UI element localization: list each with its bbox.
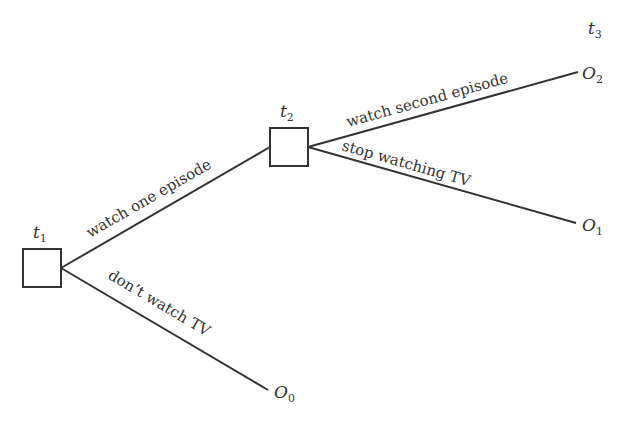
edge-stop-watching-tv xyxy=(308,147,576,223)
node-label-t2: t2 xyxy=(280,101,294,124)
outcome-label-o0: O0 xyxy=(274,382,295,405)
edge-dont-watch-tv xyxy=(61,268,268,390)
edge-watch-one-episode xyxy=(61,147,270,268)
decision-node-t1 xyxy=(23,249,61,287)
decision-tree-diagram: t1 t2 t3 O2 O1 O0 watch one episode don’… xyxy=(0,0,630,429)
outcome-label-o1: O1 xyxy=(582,215,603,238)
edge-watch-second-episode xyxy=(308,72,578,147)
edge-label-watch-one-episode: watch one episode xyxy=(83,155,215,241)
node-label-t1: t1 xyxy=(33,222,47,245)
outcome-label-o2: O2 xyxy=(582,63,603,86)
time-label-t3: t3 xyxy=(588,18,602,41)
edge-label-stop-watching-tv: stop watching TV xyxy=(340,137,474,191)
edge-label-watch-second-episode: watch second episode xyxy=(344,69,510,131)
decision-node-t2 xyxy=(270,128,308,166)
